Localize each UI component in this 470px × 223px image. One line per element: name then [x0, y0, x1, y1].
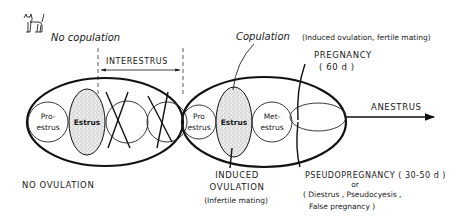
pseudopregnancy-synonyms-line1: ( Diestrus , Pseudocyesis ,: [303, 190, 401, 199]
pseudopregnancy-label: PSEUDOPREGNANCY ( 30-50 d ): [305, 171, 446, 180]
no-copulation-title: No copulation: [51, 32, 120, 43]
pregnancy-duration: ( 60 d ): [319, 62, 355, 72]
no-copulation-cycle: Pro- estrus Estrus: [27, 78, 187, 166]
pseudopregnancy-or: or: [351, 180, 360, 189]
cross-out-line: [108, 92, 128, 148]
estrus-left-label: Estrus: [74, 118, 101, 127]
metestrus-line2: estrus: [260, 123, 283, 132]
copulation-label: Copulation: [236, 31, 290, 42]
metestrus-line1: Met-: [264, 112, 281, 121]
proestrus-circle-left: [28, 102, 68, 142]
proestrus-left-line2: estrus: [36, 123, 59, 132]
estrus-right-label: Estrus: [221, 118, 248, 127]
cross-out-line: [157, 92, 168, 148]
metestrus-circle: [252, 102, 292, 142]
copulation-cycle: Pro estrus Estrus Met- estrus: [182, 77, 346, 167]
copulation-ellipse: [182, 77, 346, 167]
cat-icon: [24, 14, 44, 32]
pregnancy-label: PREGNANCY: [314, 50, 372, 60]
proestrus-left-line1: Pro-: [41, 112, 56, 121]
anestrus-label: ANESTRUS: [371, 102, 421, 112]
copulation-note: (Induced ovulation, fertile mating): [302, 33, 431, 42]
estrous-cycle-diagram: No copulation INTERESTRUS Pro- estrus Es…: [0, 0, 470, 223]
induced-note: (Infertile mating): [204, 196, 268, 205]
copulation-pointer-line: [233, 44, 254, 90]
pregnancy-pointer-line: [298, 64, 305, 120]
pseudopregnancy-pointer-line: [297, 122, 300, 167]
interestrus-label: INTERESTRUS: [106, 57, 168, 66]
no-ovulation-label: NO OVULATION: [22, 180, 94, 190]
proestrus-right-line2: estrus: [187, 123, 210, 132]
induced-label-line2: OVULATION: [210, 182, 265, 192]
pseudopregnancy-synonyms-line2: False pregnancy ): [309, 202, 375, 211]
proestrus-right-line1: Pro: [193, 112, 205, 121]
induced-label-line1: INDUCED: [215, 170, 259, 180]
